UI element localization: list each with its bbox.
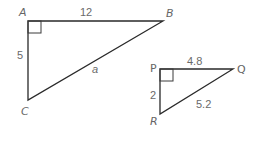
right-angle-marker-a (28, 21, 41, 33)
triangle-pqr: P Q R 4.8 2 5.2 (150, 55, 246, 128)
vertex-label-r: R (150, 115, 158, 128)
side-label-pr: 2 (150, 89, 156, 101)
vertex-label-p: P (150, 62, 157, 75)
side-label-pq: 4.8 (187, 55, 202, 67)
side-label-ac: 5 (17, 49, 23, 61)
vertex-label-c: C (21, 105, 29, 118)
triangle-abc-outline (28, 21, 163, 100)
vertex-label-q: Q (237, 63, 246, 76)
vertex-label-a: A (18, 6, 27, 19)
side-label-ab: 12 (80, 6, 92, 18)
vertex-label-b: B (166, 7, 174, 20)
side-label-bc: a (92, 63, 98, 75)
similar-triangles-diagram: A B C 12 5 a P Q R 4.8 2 5.2 (0, 0, 259, 147)
side-label-qr: 5.2 (196, 98, 211, 110)
right-angle-marker-p (160, 69, 173, 81)
